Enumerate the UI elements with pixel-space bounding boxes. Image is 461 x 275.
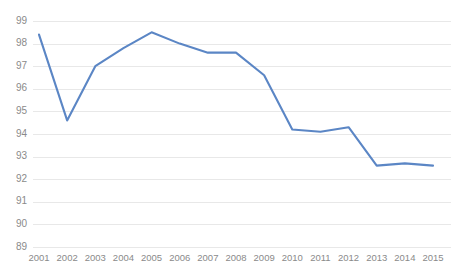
x-axis-tick-label: 2002 xyxy=(57,252,78,263)
x-axis-tick-label: 2011 xyxy=(310,252,330,263)
x-axis-tick-label: 2003 xyxy=(85,252,106,263)
y-axis-tick-label: 93 xyxy=(16,150,28,161)
y-axis-tick-label: 91 xyxy=(16,195,28,206)
x-axis-tick-label: 2006 xyxy=(169,252,190,263)
x-axis-tick-label: 2015 xyxy=(422,252,443,263)
x-axis-tick-label: 2009 xyxy=(254,252,275,263)
y-axis-tick-label: 95 xyxy=(16,105,28,116)
y-axis-tick-label: 92 xyxy=(16,173,28,184)
x-axis-tick-labels: 2001200220032004200520062007200820092010… xyxy=(28,252,443,263)
y-axis-tick-label: 98 xyxy=(16,37,28,48)
x-axis-tick-label: 2013 xyxy=(366,252,387,263)
y-axis-tick-label: 99 xyxy=(16,15,28,26)
x-axis-tick-label: 2012 xyxy=(338,252,359,263)
chart-canvas: 8990919293949596979899 20012002200320042… xyxy=(0,0,461,275)
x-axis-tick-label: 2001 xyxy=(28,252,49,263)
x-axis-tick-label: 2007 xyxy=(197,252,218,263)
y-axis-tick-label: 90 xyxy=(16,218,28,229)
y-axis-tick-label: 96 xyxy=(16,82,28,93)
data-series-group xyxy=(39,32,433,165)
y-axis-tick-label: 94 xyxy=(16,128,28,139)
y-axis-tick-label: 97 xyxy=(16,60,28,71)
x-axis-tick-label: 2014 xyxy=(394,252,415,263)
x-axis-tick-label: 2010 xyxy=(282,252,303,263)
x-axis-tick-label: 2004 xyxy=(113,252,134,263)
x-axis-tick-label: 2008 xyxy=(225,252,246,263)
gridlines-group xyxy=(33,22,451,248)
x-axis-tick-label: 2005 xyxy=(141,252,162,263)
y-axis-tick-label: 89 xyxy=(16,241,28,252)
series-line xyxy=(39,32,433,165)
line-chart: 8990919293949596979899 20012002200320042… xyxy=(0,0,461,275)
y-axis-tick-labels: 8990919293949596979899 xyxy=(16,15,28,252)
